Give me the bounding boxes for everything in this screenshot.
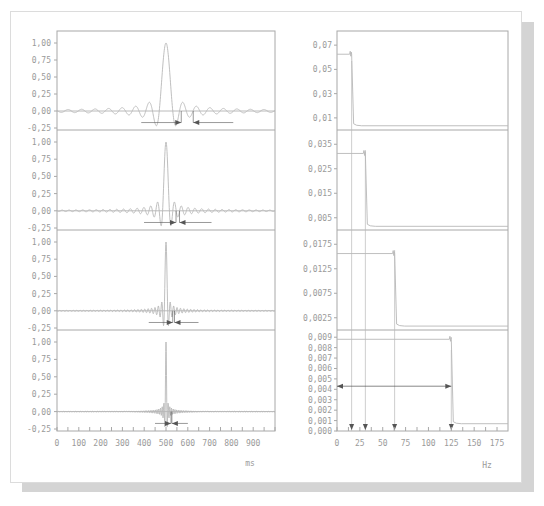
tick-label: -0,25 [27, 124, 51, 133]
arrow-head-icon [167, 320, 173, 325]
x-tick-label: 500 [159, 439, 174, 448]
left-plot-frame [57, 31, 275, 431]
arrow-head-icon [165, 421, 171, 426]
x-tick-label: 700 [202, 439, 217, 448]
tick-label: 0,000 [308, 427, 332, 436]
cutoff-arrow-icon [349, 424, 354, 430]
tick-label: 0,75 [32, 255, 51, 264]
tick-label: 0,003 [308, 396, 332, 405]
tick-label: 0,07 [313, 41, 332, 50]
arrow-left-icon [337, 384, 343, 389]
x-tick-label: 400 [137, 439, 152, 448]
tick-label: 0,00 [32, 207, 51, 216]
x-tick-label: 0 [335, 439, 340, 448]
time-panel-3 [54, 242, 275, 328]
tick-label: 0,006 [308, 364, 332, 373]
tick-label: 0,00 [32, 107, 51, 116]
cutoff-arrow-icon [363, 424, 368, 430]
tick-label: 0,75 [32, 56, 51, 65]
tick-label: 1,00 [32, 238, 51, 247]
arrow-head-icon [175, 120, 181, 125]
tick-label: 0,50 [32, 373, 51, 382]
tick-label: 0,00 [32, 408, 51, 417]
sinc-trace [57, 242, 275, 326]
x-tick-label: 25 [355, 439, 365, 448]
time-panel-1 [54, 43, 275, 128]
tick-label: 0,004 [308, 385, 332, 394]
freq-panel-4 [334, 336, 508, 431]
arrow-head-icon [180, 220, 186, 225]
x-axis-label-ms: ms [245, 459, 255, 468]
tick-label: 0,03 [313, 90, 332, 99]
sinc-trace [57, 342, 275, 427]
sinc-trace [57, 142, 275, 226]
tick-label: -0,25 [27, 324, 51, 333]
tick-label: 0,002 [308, 406, 332, 415]
x-tick-label: 125 [444, 439, 459, 448]
spectrum-trace [337, 150, 508, 226]
tick-label: 0,00 [32, 307, 51, 316]
tick-label: 0,001 [308, 417, 332, 426]
tick-label: 0,0075 [303, 289, 332, 298]
tick-label: 0,015 [308, 189, 332, 198]
tick-label: 0,007 [308, 354, 332, 363]
x-tick-label: 100 [421, 439, 436, 448]
right-plot-frame [337, 31, 508, 431]
x-tick-label: 0 [55, 439, 60, 448]
time-panel-4 [54, 342, 275, 429]
spectrum-trace [337, 336, 508, 423]
tick-label: 0,008 [308, 344, 332, 353]
figure-plots: 1,000,750,500,250,00-0,251,000,750,500,2… [0, 0, 544, 506]
arrow-head-icon [175, 320, 181, 325]
tick-label: 0,50 [32, 172, 51, 181]
x-tick-label: 300 [115, 439, 130, 448]
arrow-head-icon [172, 421, 178, 426]
freq-panel-3 [334, 244, 508, 326]
tick-label: 0,009 [308, 333, 332, 342]
tick-label: 0,75 [32, 155, 51, 164]
tick-label: 0,005 [308, 375, 332, 384]
x-tick-label: 600 [181, 439, 196, 448]
x-tick-label: 100 [72, 439, 87, 448]
tick-label: 0,25 [32, 190, 51, 199]
x-axis-label-hz: Hz [482, 461, 492, 470]
tick-label: 1,00 [32, 39, 51, 48]
x-tick-label: 200 [93, 439, 108, 448]
tick-label: 0,01 [313, 114, 332, 123]
tick-label: 0,25 [32, 90, 51, 99]
freq-panel-1 [334, 45, 508, 126]
tick-label: 0,05 [313, 65, 332, 74]
tick-label: 0,25 [32, 290, 51, 299]
tick-label: 1,00 [32, 138, 51, 147]
arrow-head-icon [193, 120, 199, 125]
tick-label: 0,50 [32, 73, 51, 82]
tick-label: 0,0025 [303, 314, 332, 323]
arrow-head-icon [170, 220, 176, 225]
tick-label: -0,25 [27, 224, 51, 233]
freq-panel-2 [334, 144, 508, 226]
arrow-right-icon [445, 384, 451, 389]
x-tick-label: 50 [378, 439, 388, 448]
x-tick-label: 800 [224, 439, 239, 448]
x-tick-label: 75 [401, 439, 411, 448]
sinc-trace [57, 43, 275, 126]
spectrum-trace [337, 251, 508, 327]
tick-label: 0,005 [308, 214, 332, 223]
time-panel-2 [54, 142, 275, 228]
tick-label: 0,75 [32, 355, 51, 364]
tick-label: 1,00 [32, 338, 51, 347]
tick-label: 0,0175 [303, 240, 332, 249]
tick-label: 0,025 [308, 165, 332, 174]
tick-label: 0,035 [308, 140, 332, 149]
tick-label: 0,50 [32, 272, 51, 281]
tick-label: 0,25 [32, 390, 51, 399]
x-tick-label: 900 [246, 439, 261, 448]
tick-label: 0,0125 [303, 265, 332, 274]
tick-label: -0,25 [27, 425, 51, 434]
x-tick-label: 150 [467, 439, 482, 448]
x-tick-label: 175 [490, 439, 505, 448]
spectrum-trace [337, 51, 508, 126]
